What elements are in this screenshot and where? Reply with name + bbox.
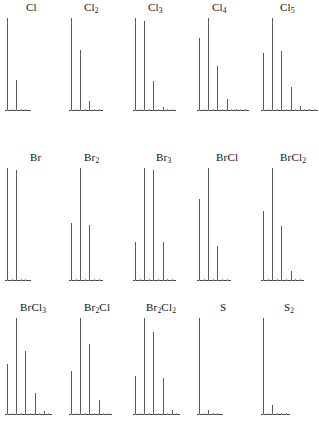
isotope-pattern-figure: ClCl2Cl3Cl4Cl5 BrBr2Br3BrClBrCl2 BrCl3Br… bbox=[0, 0, 319, 430]
spectrum-panel-br2: Br2 bbox=[64, 152, 128, 290]
spectrum-peak bbox=[89, 344, 90, 414]
spectrum-peak bbox=[208, 410, 209, 414]
spectrum-peak bbox=[71, 371, 72, 414]
spectrum-peak bbox=[25, 351, 26, 414]
axis-tick bbox=[85, 279, 86, 281]
plot-area bbox=[256, 313, 319, 415]
axis-tick bbox=[140, 413, 141, 415]
spectrum-peak bbox=[309, 109, 310, 111]
spectrum-peak bbox=[199, 199, 200, 280]
plot-area bbox=[64, 313, 128, 415]
spectrum-peak bbox=[16, 80, 17, 110]
panel-label: Br bbox=[30, 152, 41, 163]
axis-tick bbox=[213, 279, 214, 281]
plot-area bbox=[0, 13, 64, 111]
axis-tick bbox=[149, 413, 150, 415]
spectrum-panel-s: S bbox=[192, 302, 256, 424]
axis-tick bbox=[295, 279, 296, 281]
baseline-axis bbox=[5, 280, 31, 281]
axis-tick bbox=[39, 413, 40, 415]
axis-tick bbox=[108, 413, 109, 415]
axis-tick bbox=[304, 109, 305, 111]
axis-tick bbox=[99, 279, 100, 281]
axis-tick bbox=[149, 279, 150, 281]
spectrum-peak bbox=[71, 223, 72, 280]
plot-area bbox=[192, 313, 256, 415]
panel-label: S bbox=[220, 302, 226, 313]
plot-area bbox=[256, 13, 319, 111]
axis-tick bbox=[286, 279, 287, 281]
spectrum-peak bbox=[281, 51, 282, 110]
axis-tick bbox=[21, 413, 22, 415]
plot-area bbox=[0, 163, 64, 281]
panel-label: BrCl bbox=[216, 152, 238, 163]
spectrum-peak bbox=[199, 38, 200, 110]
plot-area bbox=[128, 163, 192, 281]
axis-tick bbox=[268, 109, 269, 111]
axis-tick bbox=[295, 109, 296, 111]
spectrum-peak bbox=[236, 109, 237, 111]
spectrum-peak bbox=[208, 168, 209, 280]
baseline-axis bbox=[5, 110, 31, 111]
axis-tick bbox=[76, 413, 77, 415]
axis-tick bbox=[85, 109, 86, 111]
spectrum-panel-brcl2: BrCl2 bbox=[256, 152, 319, 290]
axis-tick bbox=[277, 109, 278, 111]
axis-tick bbox=[245, 109, 246, 111]
spectrum-peak bbox=[153, 81, 154, 110]
spectrum-peak bbox=[89, 101, 90, 110]
axis-tick bbox=[167, 279, 168, 281]
axis-tick bbox=[300, 279, 301, 281]
axis-tick bbox=[172, 109, 173, 111]
axis-tick bbox=[204, 279, 205, 281]
axis-tick bbox=[76, 279, 77, 281]
axis-tick bbox=[94, 109, 95, 111]
axis-tick bbox=[85, 413, 86, 415]
spectrum-peak bbox=[144, 168, 145, 280]
axis-tick bbox=[140, 109, 141, 111]
axis-tick bbox=[158, 279, 159, 281]
spectrum-panel-br2cl: Br2Cl bbox=[64, 302, 128, 424]
axis-tick bbox=[268, 413, 269, 415]
plot-area bbox=[192, 163, 256, 281]
spectrum-panel-cl4: Cl4 bbox=[192, 2, 256, 120]
axis-tick bbox=[213, 413, 214, 415]
spectrum-peak bbox=[44, 411, 45, 414]
panel-row-1: BrBr2Br3BrClBrCl2 bbox=[0, 152, 319, 290]
spectrum-peak bbox=[135, 18, 136, 110]
spectrum-peak bbox=[35, 393, 36, 414]
spectrum-panel-br3: Br3 bbox=[128, 152, 192, 290]
spectrum-panel-cl: Cl bbox=[0, 2, 64, 120]
spectrum-peak bbox=[263, 318, 264, 414]
axis-tick bbox=[12, 279, 13, 281]
spectrum-panel-brcl3: BrCl3 bbox=[0, 302, 64, 424]
axis-tick bbox=[167, 413, 168, 415]
spectrum-panel-s2: S2 bbox=[256, 302, 319, 424]
axis-tick bbox=[158, 413, 159, 415]
axis-tick bbox=[149, 109, 150, 111]
axis-tick bbox=[286, 413, 287, 415]
spectrum-peak bbox=[263, 211, 264, 280]
axis-tick bbox=[30, 413, 31, 415]
spectrum-peak bbox=[172, 410, 173, 414]
panel-row-0: ClCl2Cl3Cl4Cl5 bbox=[0, 2, 319, 120]
axis-tick bbox=[25, 109, 26, 111]
spectrum-peak bbox=[153, 332, 154, 414]
axis-tick bbox=[227, 279, 228, 281]
spectrum-peak bbox=[144, 21, 145, 110]
spectrum-peak bbox=[300, 106, 301, 110]
spectrum-peak bbox=[163, 107, 164, 110]
axis-tick bbox=[25, 279, 26, 281]
spectrum-peak bbox=[135, 242, 136, 280]
plot-area bbox=[256, 163, 319, 281]
axis-tick bbox=[103, 413, 104, 415]
plot-area bbox=[0, 313, 64, 415]
axis-tick bbox=[277, 413, 278, 415]
axis-tick bbox=[172, 279, 173, 281]
axis-tick bbox=[222, 279, 223, 281]
axis-tick bbox=[204, 413, 205, 415]
spectrum-peak bbox=[71, 18, 72, 110]
spectrum-panel-br2cl2: Br2Cl2 bbox=[128, 302, 192, 424]
axis-tick bbox=[213, 109, 214, 111]
spectrum-peak bbox=[80, 318, 81, 414]
